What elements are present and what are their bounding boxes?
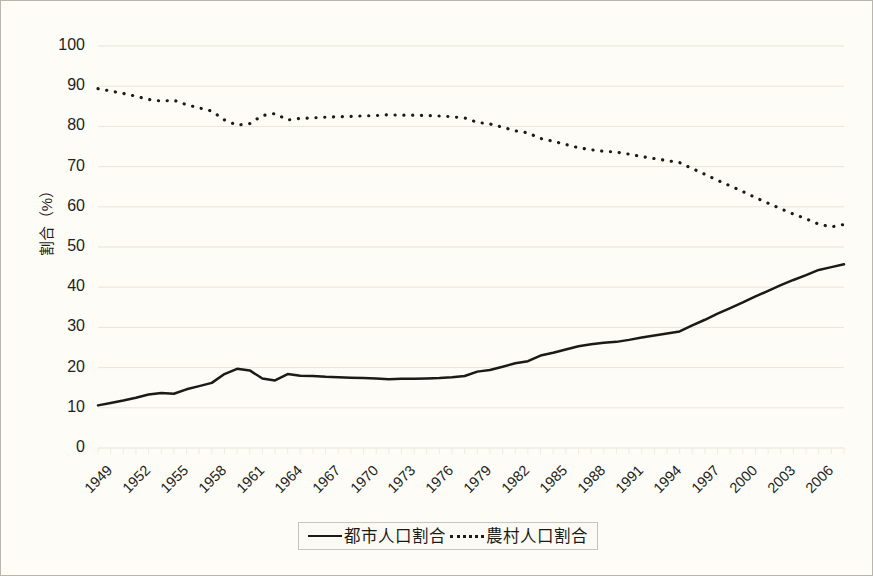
dotted-line-icon	[450, 535, 484, 538]
solid-line-icon	[308, 535, 342, 537]
series-line-urban	[98, 264, 844, 405]
legend-item-rural: 農村人口割合	[446, 528, 588, 545]
gridlines	[98, 46, 844, 448]
chart-legend: 都市人口割合 農村人口割合	[298, 522, 598, 550]
legend-label-rural: 農村人口割合	[486, 528, 588, 545]
chart-figure: 割合（%） 1009080706050403020100 19491952195…	[0, 0, 873, 576]
x-axis-tick-marks	[98, 448, 844, 454]
legend-item-urban: 都市人口割合	[308, 528, 446, 545]
legend-label-urban: 都市人口割合	[344, 528, 446, 545]
series-line-rural	[98, 89, 844, 227]
plot-area	[1, 1, 873, 576]
